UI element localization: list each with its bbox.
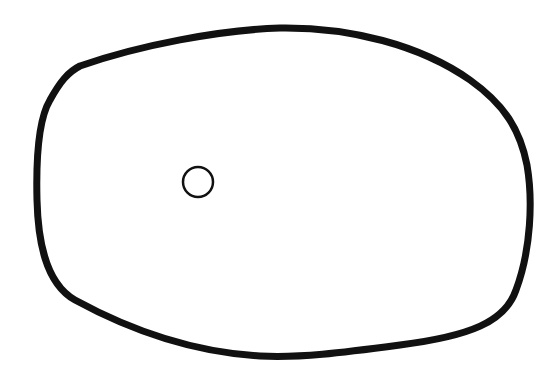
diagram-canvas — [0, 0, 560, 382]
